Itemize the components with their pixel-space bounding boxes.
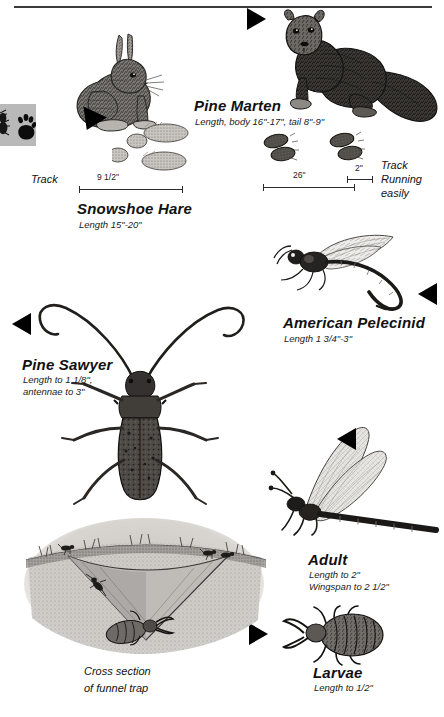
snowshoe-hare-track-prints (112, 118, 202, 174)
paw-print-glyph (17, 114, 36, 140)
antlion-larvae-illustration (282, 605, 407, 667)
pine-marten-track-caption-line-1: Track (381, 158, 408, 172)
species-sub-antlion-adult-line-2: Wingspan to 2 1/2" (309, 581, 389, 593)
species-sub-american-pelecinid: Length 1 3/4"-3" (284, 333, 352, 345)
species-name-american-pelecinid: American Pelecinid (283, 314, 425, 331)
species-sub-snowshoe-hare: Length 15"-20" (79, 219, 142, 231)
species-sub-pine-sawyer-line-2: antennae to 3" (23, 386, 84, 398)
species-name-antlion-adult: Adult (308, 551, 347, 568)
pine-sawyer-illustration (22, 288, 252, 513)
pine-marten-track-prints (262, 130, 382, 170)
funnel-trap-caption-line-2: of funnel trap (84, 681, 148, 695)
pine-marten-illustration (262, 8, 444, 133)
pine-marten-measure-bar-26 (263, 184, 355, 191)
species-name-snowshoe-hare: Snowshoe Hare (77, 200, 192, 217)
pine-marten-measure-label-2: 2" (355, 163, 363, 173)
american-pelecinid-illustration (265, 232, 430, 312)
field-guide-page: Track 9 1/2" Snowshoe Hare Length 15"-20… (0, 0, 444, 717)
snowshoe-hare-measure-label: 9 1/2" (97, 172, 119, 182)
pine-marten-measure-label-26: 26" (293, 170, 305, 180)
pointer-arrow-pine-sawyer (12, 313, 31, 335)
species-name-pine-sawyer: Pine Sawyer (22, 356, 113, 373)
funnel-trap-caption-line-1: Cross section (84, 664, 151, 678)
pine-marten-measure-bar-2 (347, 176, 373, 183)
antlion-adult-illustration (268, 418, 444, 536)
pine-marten-track-caption-line-2: Running (381, 172, 422, 186)
pointer-arrow-antlion-adult (337, 428, 356, 450)
species-sub-antlion-adult-line-1: Length to 2" (309, 569, 360, 581)
snowshoe-hare-track-label: Track (31, 172, 58, 186)
species-sub-pine-sawyer-line-1: Length to 1 1/8", (23, 374, 92, 386)
pointer-arrow-pine-marten (247, 8, 266, 30)
species-sub-antlion-larvae: Length to 1/2" (314, 682, 373, 694)
species-sub-pine-marten: Length, body 16"-17", tail 8"-9" (195, 116, 324, 128)
pointer-arrow-american-pelecinid (418, 283, 437, 305)
snowshoe-hare-measure-bar (79, 186, 183, 193)
funnel-trap-illustration (22, 512, 272, 657)
insect-silhouette (0, 110, 10, 135)
pine-marten-track-caption-line-3: easily (381, 186, 409, 200)
animal-tracks-tab-icon[interactable] (0, 104, 36, 146)
species-name-pine-marten: Pine Marten (194, 97, 281, 114)
species-name-antlion-larvae: Larvae (313, 664, 363, 681)
